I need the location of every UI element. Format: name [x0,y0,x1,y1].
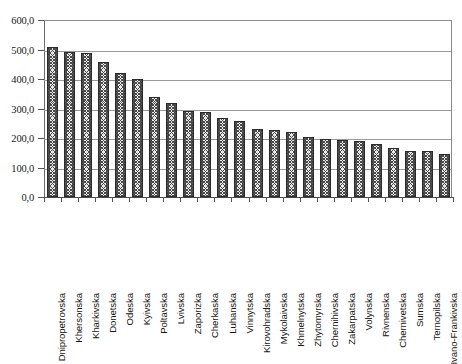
y-tick-label: 600,0 [11,15,34,26]
x-tick-mark [44,197,45,202]
x-axis-category-label: Zhytomyrska [312,293,323,347]
bar [115,73,126,197]
x-tick-mark [385,197,386,202]
x-tick-mark [368,197,369,202]
x-axis-category-label: Mykolaivska [278,293,289,344]
x-axis-category-label: Volynska [363,293,374,331]
bar [132,79,143,197]
bar [320,139,331,197]
x-tick-mark [283,197,284,202]
y-tick-label: 0,0 [21,192,34,203]
bar [234,121,245,197]
x-axis-category-label: Lvivska [175,293,186,324]
x-axis-category-label: Kharkivska [90,293,101,339]
bar [371,144,382,197]
bar [354,141,365,197]
x-tick-mark [146,197,147,202]
x-axis-category-label: Dnipropetrovska [56,293,67,361]
x-axis-category-label: Sumska [414,293,425,327]
bar [269,130,280,197]
bar [388,148,399,197]
x-tick-mark [78,197,79,202]
x-axis-category-label: Ivano-Frankivska [448,293,459,364]
x-tick-mark [249,197,250,202]
x-tick-mark [214,197,215,202]
x-axis-category-label: Rivnenska [380,293,391,337]
bar [303,137,314,197]
bar [166,103,177,197]
x-axis-category-label: Ternopilska [431,293,442,340]
x-tick-mark [402,197,403,202]
x-tick-mark [231,197,232,202]
bars-layer [44,20,453,197]
x-axis-category-label: Chernivetska [397,293,408,348]
y-axis: 0,0100,0200,0300,0400,0500,0600,0 [0,0,40,295]
x-tick-mark [163,197,164,202]
bar [286,132,297,197]
x-tick-mark [436,197,437,202]
y-tick-label: 100,0 [11,162,34,173]
x-tick-mark [95,197,96,202]
bar [405,151,416,197]
x-tick-mark [266,197,267,202]
bar [252,129,263,197]
x-axis-category-label: Kyivska [141,293,152,325]
x-axis-category-label: Khersonska [73,293,84,343]
x-axis-category-label: Zakarpatska [346,293,357,345]
bar [47,47,58,197]
x-axis-category-label: Kirovohradska [261,293,272,353]
x-tick-mark [180,197,181,202]
x-axis-category-label: Vinnytska [244,293,255,334]
y-tick-label: 300,0 [11,103,34,114]
x-tick-mark [351,197,352,202]
bar [149,97,160,197]
x-tick-mark [112,197,113,202]
x-tick-mark [317,197,318,202]
x-axis-category-label: Poltavska [158,293,169,334]
x-tick-mark [453,197,454,202]
x-tick-mark [300,197,301,202]
x-axis-labels: DnipropetrovskaKhersonskaKharkivskaDonet… [44,203,453,295]
bar [439,154,450,197]
x-tick-mark [419,197,420,202]
y-tick-label: 500,0 [11,44,34,55]
x-tick-mark [61,197,62,202]
x-axis-category-label: Donetska [107,293,118,333]
x-axis-category-label: Chernihivska [329,293,340,347]
bar [337,140,348,197]
x-tick-mark [129,197,130,202]
x-tick-mark [197,197,198,202]
bar [183,111,194,197]
y-tick-label: 200,0 [11,133,34,144]
y-tick-label: 400,0 [11,74,34,85]
x-axis-category-label: Cherkaska [209,293,220,338]
bar [200,112,211,197]
bar [64,52,75,197]
x-axis-category-label: Odeska [124,293,135,325]
bar [422,151,433,197]
bar [81,53,92,197]
bar [217,118,228,197]
bar [98,62,109,197]
x-tick-mark [334,197,335,202]
x-axis-category-label: Luhanska [227,293,238,334]
x-axis-category-label: Zaporizka [192,293,203,334]
x-axis-category-label: Khmelnytska [295,293,306,347]
